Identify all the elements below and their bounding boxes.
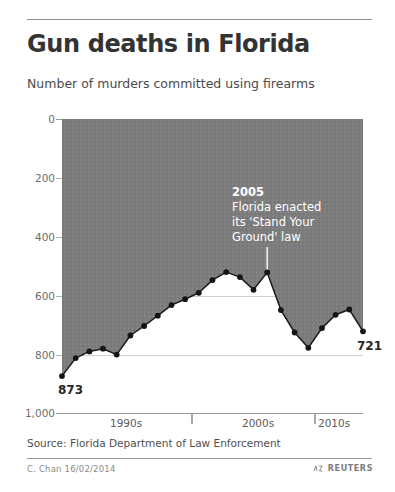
first-value-label: 873 <box>58 383 83 397</box>
reuters-credit: REUTERS <box>313 464 373 473</box>
y-tick-800: 800 <box>35 349 55 361</box>
annotation-year: 2005 <box>232 185 264 199</box>
y-tick-200: 200 <box>35 172 55 184</box>
annotation-line-3: Ground' law <box>232 230 301 244</box>
y-tick-0: 0 <box>48 113 55 125</box>
bottom-divider <box>27 458 372 459</box>
gun-deaths-area-chart: 2005 Florida enacted its 'Stand Your Gro… <box>0 0 395 492</box>
y-tick-400: 400 <box>35 231 55 243</box>
x-tick-2010s: 2010s <box>318 417 350 429</box>
reuters-wordmark: REUTERS <box>328 464 373 473</box>
x-axis-labels: 1990s 2000s 2010s <box>110 417 350 429</box>
y-tick-marks <box>56 120 62 414</box>
y-tick-600: 600 <box>35 290 55 302</box>
y-tick-1000: 1,000 <box>25 407 55 419</box>
source-note: Source: Florida Department of Law Enforc… <box>27 437 281 449</box>
x-tick-2000s: 2000s <box>242 417 274 429</box>
x-tick-1990s: 1990s <box>110 417 142 429</box>
chart-container: 2005 Florida enacted its 'Stand Your Gro… <box>0 0 395 492</box>
area-fill <box>62 119 363 376</box>
annotation-line-1: Florida enacted <box>232 200 321 214</box>
reuters-logo-icon <box>313 464 325 473</box>
byline: C. Chan 16/02/2014 <box>27 464 116 474</box>
y-axis-labels: 0 200 400 600 800 1,000 <box>25 113 55 419</box>
last-value-label: 721 <box>357 339 382 353</box>
annotation-line-2: its 'Stand Your <box>232 215 314 229</box>
infographic-page: Gun deaths in Florida Number of murders … <box>0 0 395 492</box>
